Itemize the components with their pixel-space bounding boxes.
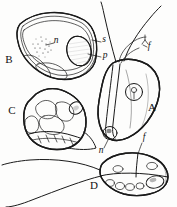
panel-label-a: A (148, 101, 156, 113)
part-label-f-a: f (148, 41, 152, 51)
panel-a-basal-body (103, 127, 117, 140)
figure-illustration: B C A D n s p f n f (0, 0, 177, 207)
flagellum-d-2 (6, 176, 101, 207)
panel-d-vacuole-4 (115, 182, 124, 189)
part-label-p-b: p (102, 50, 108, 60)
panel-a-nucleus (126, 84, 143, 101)
flagellum-a-3 (119, 37, 146, 62)
leader-f-a (143, 45, 147, 47)
panel-b-cavity (23, 21, 92, 71)
panel-d-vacuole-1 (113, 166, 123, 173)
panel-a-cell (98, 2, 161, 140)
leader-f-d (138, 143, 142, 154)
figure-plate: B C A D n s p f n f (0, 0, 177, 207)
panel-label-d: D (90, 179, 98, 191)
panel-label-b: B (5, 53, 12, 65)
leader-n-a (104, 140, 108, 148)
part-label-s-b: s (102, 34, 106, 44)
part-label-f-d: f (143, 132, 147, 142)
part-label-n-b: n (54, 35, 59, 45)
flagellum-d-1 (2, 159, 100, 170)
panel-d-dark-body (145, 174, 165, 189)
panel-b-nucleus (33, 37, 52, 58)
panel-c-lobe-left (25, 116, 39, 133)
panel-d-cell (2, 153, 168, 207)
panel-d-vacuole-6 (136, 183, 144, 189)
panel-a-flagella (101, 2, 161, 63)
panel-a-body (98, 59, 160, 140)
part-label-n-a: n (99, 145, 104, 155)
panel-d-flagella (2, 159, 101, 207)
panel-d-vacuole-5 (126, 184, 135, 191)
panel-label-c: C (8, 104, 15, 116)
panel-d-membrane (100, 173, 168, 177)
panel-c-cell (24, 89, 96, 150)
panel-b-cell (17, 13, 99, 80)
panel-d-vacuole-2 (147, 162, 158, 169)
